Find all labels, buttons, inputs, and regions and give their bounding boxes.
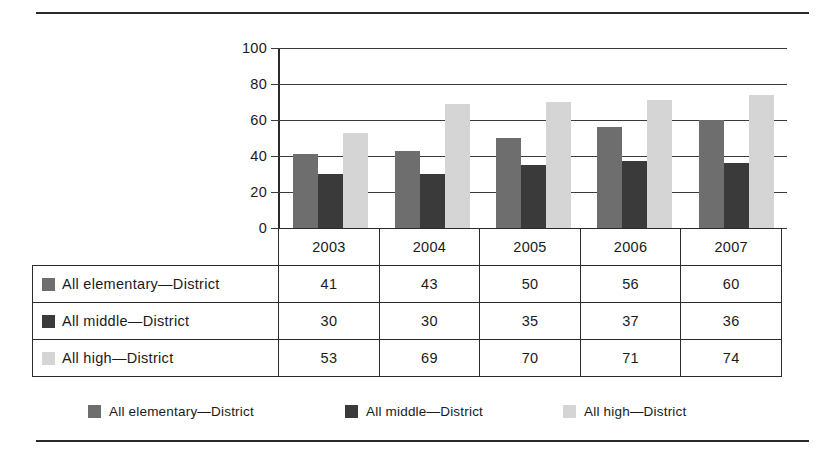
table-cell: 50 [480,266,581,303]
y-tick-label-20: 20 [250,184,267,200]
legend-item-middle: All middle—District [345,404,483,419]
tick-mark-20 [271,192,278,193]
table-cell: 69 [379,340,480,377]
legend-item-elementary: All elementary—District [88,404,254,419]
table-cell: 30 [279,303,380,340]
bar-high-2004 [445,104,470,228]
y-tick-label-60: 60 [250,112,267,128]
tick-mark-80 [271,84,278,85]
tick-mark-100 [271,48,278,49]
legend-item-label: All middle—District [366,404,483,419]
bar-high-2003 [343,133,368,228]
bar-middle-2007 [724,163,749,228]
bar-group-2004 [381,48,482,228]
table-row: All high—District5369707174 [33,340,782,377]
bar-middle-2006 [622,161,647,228]
table-header-year-2006: 2006 [580,229,681,266]
table-header-row: 20032004200520062007 [33,229,782,266]
legend-item-label: All high—District [584,404,686,419]
table-row-label-text: All middle—District [62,313,189,329]
tick-mark-60 [271,120,278,121]
table-row: All middle—District3030353736 [33,303,782,340]
bar-high-2006 [647,100,672,228]
legend-item-high: All high—District [563,404,686,419]
data-table: 20032004200520062007All elementary—Distr… [32,228,782,377]
table-header-year-2005: 2005 [480,229,581,266]
table-cell: 56 [580,266,681,303]
table-cell: 53 [279,340,380,377]
y-tick-label-40: 40 [250,148,267,164]
bar-high-2005 [546,102,571,228]
bar-elementary-2005 [496,138,521,228]
bar-elementary-2006 [597,127,622,228]
color-swatch-icon [42,315,55,328]
bar-group-2007 [686,48,787,228]
legend-item-label: All elementary—District [109,404,254,419]
table-row-label: All high—District [33,340,279,377]
table-row-label-text: All elementary—District [62,276,220,292]
bar-group-2003 [280,48,381,228]
y-tick-label-80: 80 [250,76,267,92]
table-cell: 30 [379,303,480,340]
bar-middle-2005 [521,165,546,228]
table-cell: 60 [681,266,782,303]
color-swatch-icon [42,352,55,365]
table-row-label: All elementary—District [33,266,279,303]
bar-middle-2003 [318,174,343,228]
table-row: All elementary—District4143505660 [33,266,782,303]
table-cell: 36 [681,303,782,340]
bar-chart: 020406080100 [278,48,787,228]
bar-high-2007 [749,95,774,228]
y-tick-label-100: 100 [242,40,267,56]
figure-top-rule [36,12,809,14]
table-cell: 35 [480,303,581,340]
legend-swatch-icon [563,405,576,418]
table-cell: 74 [681,340,782,377]
bar-elementary-2007 [699,120,724,228]
table-header-year-2003: 2003 [279,229,380,266]
table-cell: 71 [580,340,681,377]
table-cell: 70 [480,340,581,377]
table-header-year-2007: 2007 [681,229,782,266]
table-cell: 37 [580,303,681,340]
bar-middle-2004 [420,174,445,228]
bar-groups [280,48,787,228]
tick-mark-40 [271,156,278,157]
bar-group-2006 [584,48,685,228]
legend-swatch-icon [345,405,358,418]
table-row-label-text: All high—District [62,350,173,366]
bar-elementary-2004 [395,151,420,228]
figure-bottom-rule [36,440,809,442]
table-corner-cell [33,229,279,266]
table-cell: 43 [379,266,480,303]
table-cell: 41 [279,266,380,303]
table-row-label: All middle—District [33,303,279,340]
color-swatch-icon [42,278,55,291]
legend-swatch-icon [88,405,101,418]
chart-legend: All elementary—DistrictAll middle—Distri… [88,404,708,424]
table-header-year-2004: 2004 [379,229,480,266]
bar-elementary-2003 [293,154,318,228]
bar-group-2005 [483,48,584,228]
